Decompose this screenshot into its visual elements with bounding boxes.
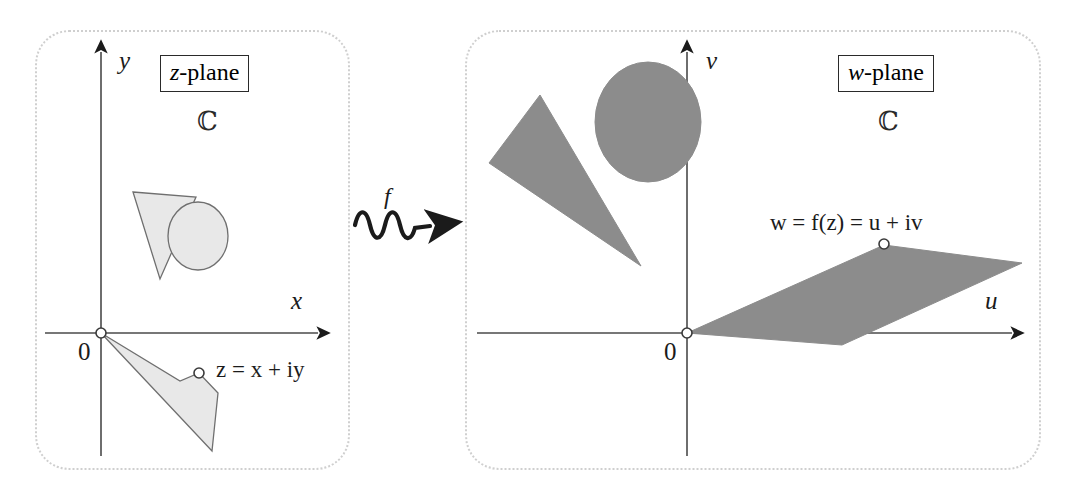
mapping-function-label: f xyxy=(384,183,391,210)
z-plane-panel xyxy=(35,30,350,470)
z-point-formula: z = x + iy xyxy=(216,357,305,383)
z-plane-label-text: -plane xyxy=(179,59,239,85)
w-plane-label-text: -plane xyxy=(864,59,924,85)
w-axis-v-label: v xyxy=(706,48,717,73)
w-plane-label-symbol: w xyxy=(848,59,864,85)
z-origin-label: 0 xyxy=(78,339,91,364)
z-axis-x-label: x xyxy=(291,288,302,313)
z-plane-label-symbol: z xyxy=(170,59,179,85)
w-plane-label-box: w-plane xyxy=(838,55,934,92)
z-plane-label-box: z-plane xyxy=(160,55,249,92)
w-plane-field-symbol: ℂ xyxy=(878,106,899,137)
figure-canvas: z-plane ℂ y x 0 z = x + iy f w-plane ℂ v… xyxy=(0,0,1070,494)
z-axis-y-label: y xyxy=(119,48,130,73)
wavy-arrow-icon xyxy=(355,212,430,238)
w-axis-u-label: u xyxy=(985,288,998,313)
w-point-formula: w = f(z) = u + iv xyxy=(770,210,923,236)
w-origin-label: 0 xyxy=(664,339,677,364)
z-plane-field-symbol: ℂ xyxy=(197,106,218,137)
w-plane-panel xyxy=(465,30,1041,470)
